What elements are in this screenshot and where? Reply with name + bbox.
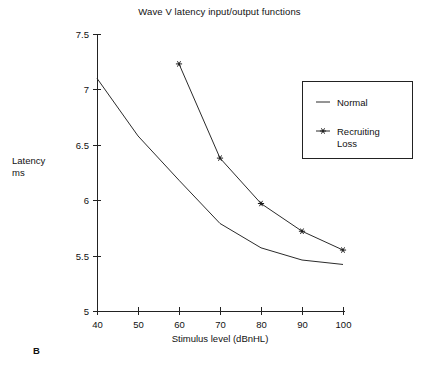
x-tick-label: 100 (336, 319, 352, 330)
x-tick-label: 80 (256, 319, 267, 330)
y-tick-label: 6 (84, 195, 89, 206)
figure-panel-b: Wave V latency input/output functions La… (0, 0, 439, 372)
y-tick-label: 6.5 (76, 140, 89, 151)
y-tick-label: 7.5 (76, 29, 89, 40)
tick-labels-group: 55.566.577.5405060708090100 (76, 29, 352, 330)
x-tick-label: 90 (297, 319, 308, 330)
plot-area: 55.566.577.5405060708090100 NormalRecrui… (0, 0, 439, 372)
y-tick-label: 5 (84, 306, 89, 317)
data-point-marker (340, 247, 346, 252)
legend-label-line2: Loss (337, 138, 357, 149)
legend-box (303, 82, 413, 159)
y-tick-label: 7 (84, 84, 89, 95)
data-point-marker (176, 61, 182, 66)
y-tick-label: 5.5 (76, 251, 89, 262)
axes-group (97, 34, 345, 311)
legend-label: Normal (337, 97, 368, 108)
x-tick-label: 70 (215, 319, 226, 330)
chart-legend: NormalRecruitingLoss (303, 82, 413, 159)
x-tick-label: 40 (92, 319, 103, 330)
legend-label: Recruiting (337, 126, 380, 137)
x-tick-label: 60 (174, 319, 185, 330)
ticks-group (93, 35, 344, 316)
x-tick-label: 50 (133, 319, 144, 330)
